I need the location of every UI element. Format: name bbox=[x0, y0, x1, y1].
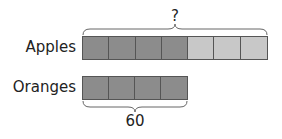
apples-total-label: ? bbox=[165, 7, 185, 25]
oranges-total-label: 60 bbox=[120, 112, 150, 130]
bar-unit bbox=[135, 77, 161, 99]
bar-unit bbox=[161, 77, 187, 99]
bar-unit bbox=[109, 37, 135, 59]
bar-unit bbox=[241, 37, 267, 59]
bar-unit bbox=[162, 37, 188, 59]
bar-unit bbox=[83, 77, 109, 99]
apples-total-brace bbox=[82, 24, 268, 36]
apples-label: Apples bbox=[0, 38, 76, 56]
bar-unit bbox=[136, 37, 162, 59]
oranges-label: Oranges bbox=[0, 78, 76, 96]
bar-unit bbox=[83, 37, 109, 59]
bar-unit bbox=[188, 37, 214, 59]
bar-unit bbox=[109, 77, 135, 99]
oranges-bar bbox=[82, 76, 188, 100]
apples-bar bbox=[82, 36, 268, 60]
bar-unit bbox=[214, 37, 240, 59]
